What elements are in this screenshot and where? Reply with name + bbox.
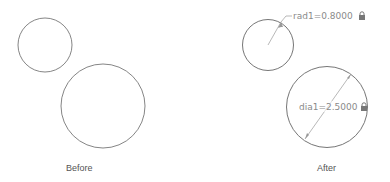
diameter-arrowhead-top	[347, 74, 351, 79]
radius-dimension-line	[268, 22, 281, 45]
radius-dimension-label: rad1=0.8000	[293, 11, 353, 21]
diameter-dimension[interactable]: dia1=2.5000	[298, 74, 367, 139]
after-panel: rad1=0.8000 dia1=2.5000	[243, 11, 368, 148]
before-large-circle	[61, 64, 145, 148]
lock-icon	[359, 12, 365, 20]
after-caption: After	[317, 163, 336, 173]
before-caption: Before	[66, 163, 93, 173]
diameter-dimension-label: dia1=2.5000	[299, 102, 358, 112]
before-small-circle	[18, 18, 72, 72]
diagram-canvas: rad1=0.8000 dia1=2.5000	[0, 0, 390, 182]
radius-leader-line	[281, 16, 292, 22]
lock-icon	[361, 103, 367, 111]
before-panel	[18, 18, 145, 148]
radius-dimension[interactable]: rad1=0.8000	[268, 11, 365, 45]
